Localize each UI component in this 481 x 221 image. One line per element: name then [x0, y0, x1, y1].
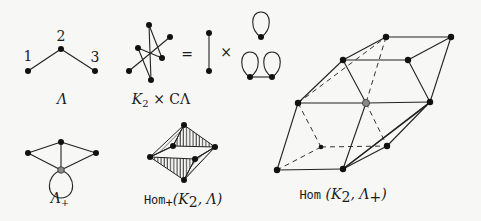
- vertex-3: [92, 68, 98, 74]
- vertex: [181, 122, 187, 128]
- vertex: [274, 167, 280, 173]
- vertex: [340, 166, 346, 172]
- product-vertex: [135, 45, 141, 51]
- vertex-2: [58, 46, 64, 52]
- vertex: [58, 139, 64, 145]
- vertex: [170, 143, 176, 149]
- k2-vertex: [206, 30, 212, 36]
- vertex: [448, 34, 454, 40]
- vertex: [427, 99, 433, 105]
- product-vertex: [159, 55, 165, 61]
- loop-edge: [264, 52, 281, 77]
- looped-vertex: [58, 167, 65, 174]
- vertex: [93, 150, 99, 156]
- hom-caption: Hom (K2, Λ+): [299, 186, 386, 205]
- loop-vertex: [258, 34, 264, 40]
- loop-vertex: [247, 74, 253, 80]
- vertex: [383, 34, 389, 40]
- product-vertex: [148, 77, 154, 83]
- vertex: [405, 57, 411, 63]
- vertex-1: [25, 68, 31, 74]
- hidden-vertex: [319, 145, 324, 150]
- vertex-label-3: 3: [91, 49, 100, 65]
- lambda-graph: 1 2 3 Λ: [24, 28, 100, 107]
- vertex: [147, 154, 153, 160]
- vertex-label-1: 1: [24, 48, 33, 64]
- center-vertex: [362, 99, 369, 106]
- k2-vertex: [206, 68, 212, 74]
- hom-plus-complex: Hom+(K2, Λ): [144, 122, 222, 210]
- hom-plus-caption: Hom+(K2, Λ): [144, 191, 222, 210]
- equals-sign: =: [181, 46, 193, 62]
- loop-edge: [253, 12, 270, 37]
- product-graph: = × K2 × CΛ: [126, 12, 280, 109]
- hom-polytope: Hom (K2, Λ+): [274, 34, 454, 205]
- product-vertex: [167, 34, 173, 40]
- vertex: [295, 100, 301, 106]
- hidden-edge: [298, 103, 321, 147]
- lambda-plus-graph: Λ+: [25, 139, 99, 208]
- product-vertex: [126, 68, 132, 74]
- lambda-caption: Λ: [55, 91, 67, 107]
- vertex: [25, 150, 31, 156]
- vertex: [181, 177, 187, 183]
- hidden-edge: [366, 37, 386, 103]
- edge-1-2: [28, 49, 61, 71]
- vertex: [384, 143, 390, 149]
- loop-edge: [242, 52, 259, 77]
- diagram-canvas: 1 2 3 Λ = × K2 × CΛ: [0, 0, 481, 221]
- product-caption: K2 × CΛ: [131, 91, 191, 109]
- vertex: [192, 156, 198, 162]
- vertex-label-2: 2: [57, 28, 66, 44]
- product-vertex: [146, 22, 152, 28]
- loop-vertex: [269, 74, 275, 80]
- lambda-plus-caption: Λ+: [49, 190, 70, 208]
- vertex: [212, 144, 218, 150]
- hidden-edge: [298, 37, 386, 103]
- times-sign: ×: [220, 44, 232, 60]
- vertex: [340, 57, 346, 63]
- hidden-edge: [321, 146, 387, 147]
- hidden-edge: [366, 103, 387, 146]
